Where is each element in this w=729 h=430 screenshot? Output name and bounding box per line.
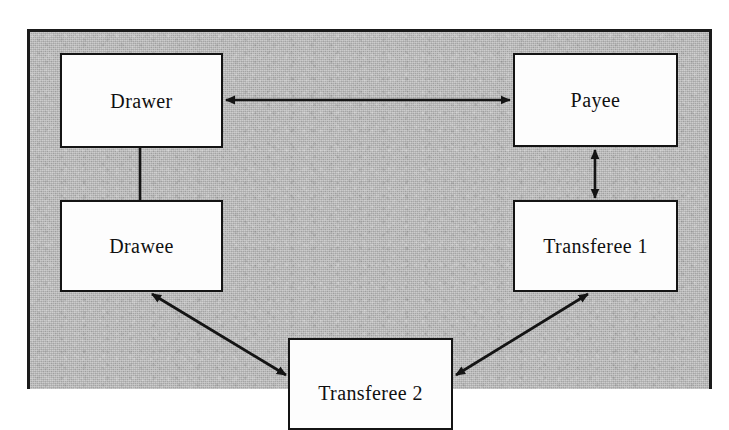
node-payee[interactable]: Payee [513,53,678,147]
node-drawee[interactable]: Drawee [60,200,223,292]
node-transferee-2-label: Transferee 2 [318,383,423,403]
node-transferee-1[interactable]: Transferee 1 [513,200,678,292]
node-drawee-label: Drawee [109,236,174,256]
node-transferee-2[interactable]: Transferee 2 [288,338,453,430]
node-drawer-label: Drawer [110,91,172,111]
node-drawer[interactable]: Drawer [60,53,223,148]
node-payee-label: Payee [571,90,621,110]
node-transferee-1-label: Transferee 1 [543,236,648,256]
